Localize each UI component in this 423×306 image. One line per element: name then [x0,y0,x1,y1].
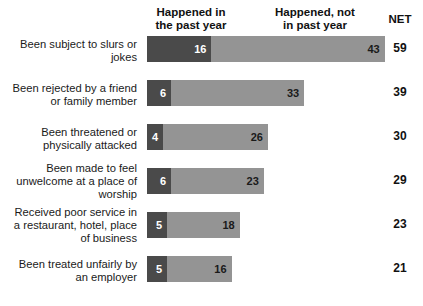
row-category-label-line: physically attacked [0,139,137,152]
column-header-happened-not-past-year: Happened, not in past year [263,6,367,32]
row-category-label-line: Received poor service in [0,206,137,219]
row-net-value: 29 [380,173,420,187]
stacked-bar: 516 [147,256,232,282]
row-net-value: 39 [380,85,420,99]
bar-segment-happened-not-past-year: 23 [171,168,264,194]
bar-segment-happened-past-year: 5 [147,212,167,238]
row-category-label: Been threatened orphysically attacked [0,126,142,152]
chart-row: Been rejected by a friendor family membe… [0,80,423,124]
row-net-value: 23 [380,217,420,231]
stacked-bar-chart: Happened in the past year Happened, not … [0,0,423,306]
bar-segment-happened-past-year: 4 [147,124,163,150]
bar-segment-happened-past-year: 6 [147,168,171,194]
bar-segment-happened-not-past-year: 33 [171,80,304,106]
row-category-label-line: of business [0,232,137,245]
bar-segment-happened-past-year: 6 [147,80,171,106]
bar-segment-happened-past-year: 5 [147,256,167,282]
bar-segment-happened-not-past-year: 16 [167,256,231,282]
row-net-value: 59 [380,41,420,55]
row-category-label-line: an employer [0,271,137,284]
row-net-value: 21 [380,261,420,275]
bar-segment-value: 18 [222,219,239,231]
row-category-label-line: unwelcome at a place of [0,175,137,188]
row-category-label-line: Been treated unfairly by [0,258,137,271]
row-category-label: Been rejected by a friendor family membe… [0,82,142,108]
row-category-label: Been treated unfairly byan employer [0,258,142,284]
column-header-line2: the past year [143,19,239,32]
bar-segment-value: 33 [287,87,304,99]
column-header-net: NET [380,13,420,26]
chart-header: Happened in the past year Happened, not … [0,0,423,36]
bar-segment-value: 16 [214,263,231,275]
bar-segment-happened-not-past-year: 26 [163,124,268,150]
chart-row: Been subject to slurs orjokes164359 [0,36,423,80]
row-category-label-line: worship [0,188,137,201]
bar-segment-value: 4 [152,131,163,143]
bar-segment-value: 16 [194,43,211,55]
bar-segment-value: 5 [156,263,167,275]
stacked-bar: 623 [147,168,264,194]
bar-segment-value: 26 [251,131,268,143]
bar-segment-happened-not-past-year: 43 [211,36,384,62]
column-header-line1: Happened, not [263,6,367,19]
stacked-bar: 633 [147,80,304,106]
stacked-bar: 518 [147,212,240,238]
chart-row: Received poor service ina restaurant, ho… [0,212,423,256]
bar-segment-happened-not-past-year: 18 [167,212,240,238]
row-category-label-line: a restaurant, hotel, place [0,219,137,232]
bar-segment-value: 5 [156,219,167,231]
chart-rows: Been subject to slurs orjokes164359Been … [0,36,423,298]
column-header-line2: in past year [263,19,367,32]
chart-row: Been treated unfairly byan employer51621 [0,256,423,298]
bar-segment-happened-past-year: 16 [147,36,211,62]
row-category-label: Been subject to slurs orjokes [0,38,142,64]
row-net-value: 30 [380,129,420,143]
stacked-bar: 426 [147,124,268,150]
bar-segment-value: 6 [160,175,171,187]
row-category-label: Been made to feelunwelcome at a place of… [0,162,142,202]
row-category-label-line: Been subject to slurs or [0,38,137,51]
row-category-label-line: jokes [0,51,137,64]
row-category-label-line: Been made to feel [0,162,137,175]
row-category-label-line: Been rejected by a friend [0,82,137,95]
row-category-label-line: Been threatened or [0,126,137,139]
column-header-happened-past-year: Happened in the past year [143,6,239,32]
row-category-label: Received poor service ina restaurant, ho… [0,206,142,246]
row-category-label-line: or family member [0,95,137,108]
stacked-bar: 1643 [147,36,385,62]
column-header-line1: Happened in [143,6,239,19]
bar-segment-value: 23 [247,175,264,187]
bar-segment-value: 6 [160,87,171,99]
